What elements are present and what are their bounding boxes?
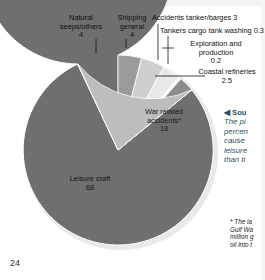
caption-line-5: than ti [224, 155, 265, 165]
caption-heading: ◀ Sou [224, 108, 265, 117]
page-number: 24 [10, 258, 20, 268]
label-exploration-production: Exploration and production 0.2 [176, 40, 256, 66]
label-shipping-general: Shipping general 4 [113, 14, 151, 40]
label-natural-seeps-value: 4 [52, 31, 110, 40]
label-tankers-cargo-tank-washing: Tankers cargo tank washing 0.3 [160, 27, 264, 36]
label-war-value: 18 [132, 125, 196, 134]
label-coastal-refineries-value: 2.5 [192, 77, 262, 86]
footnote-line-4: oil into t [230, 241, 265, 249]
caption-line-2: percen [224, 127, 265, 137]
footnote-block: * The la Gulf Wa million g oil into t [230, 218, 265, 248]
label-shipping-general-value: 4 [113, 31, 151, 40]
label-accidents-tanker-barges: Accidents tanker/barges 3 [152, 14, 237, 23]
caption-line-1: The pi [224, 117, 265, 127]
caption-line-3: cause [224, 136, 265, 146]
footnote-line-3: million g [230, 233, 265, 241]
label-coastal-refineries: Coastal refineries 2.5 [192, 68, 262, 85]
caption-line-4: leisure [224, 146, 265, 156]
footnote-line-2: Gulf Wa [230, 226, 265, 234]
label-exploration-value: 0.2 [176, 57, 256, 66]
page-canvas: Natural seeps/others 4 Shipping general … [0, 0, 265, 280]
caption-block: ◀ Sou The pi percen cause leisure than t… [224, 108, 265, 165]
footnote-line-1: * The la [230, 218, 265, 226]
label-war-related-accidents: War related accidents* 18 [132, 108, 196, 134]
label-leisure-craft-value: 68 [50, 184, 130, 193]
label-leisure-craft: Leisure craft 68 [50, 175, 130, 192]
label-natural-seeps: Natural seeps/others 4 [52, 14, 110, 40]
